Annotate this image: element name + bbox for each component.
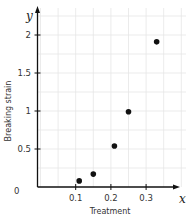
scatter-chart: 0.10.20.30.511.52 y x 0 Treatment Breaki… [0, 0, 193, 217]
y-tick-label: 2 [26, 30, 31, 40]
data-point [126, 109, 132, 115]
x-tick-label: 0.3 [139, 193, 153, 203]
x-axis-variable: x [179, 192, 186, 206]
data-point [91, 171, 97, 177]
y-tick-label: 0.5 [17, 144, 31, 154]
data-point [76, 178, 82, 184]
data-point [154, 39, 160, 45]
x-tick-label: 0.2 [104, 193, 118, 203]
y-tick-label: 1 [26, 106, 31, 116]
y-axis-arrow-icon [35, 6, 40, 13]
x-tick-label: 0.1 [69, 193, 83, 203]
grid-lines [38, 8, 187, 187]
x-axis-arrow-icon [173, 185, 180, 190]
y-axis-title: Breaking strain [4, 81, 13, 142]
origin-label: 0 [14, 186, 19, 196]
axes [35, 6, 180, 190]
y-tick-label: 1.5 [17, 68, 31, 78]
data-point [112, 143, 118, 149]
x-axis-title: Treatment [89, 207, 131, 216]
y-axis-variable: y [25, 9, 33, 23]
